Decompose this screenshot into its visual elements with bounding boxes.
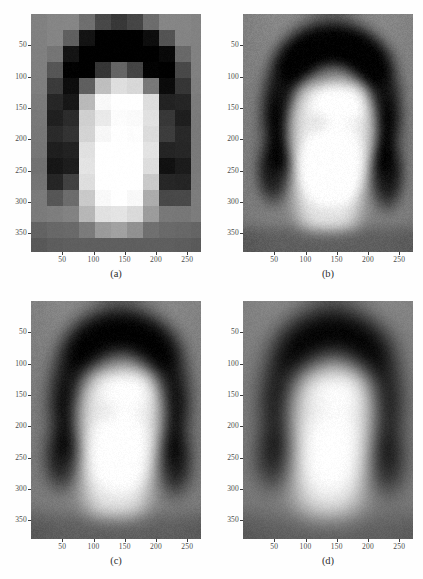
- panel-b-ytick-100: 100: [217, 72, 239, 81]
- panel-a-xtickmark: [62, 252, 63, 255]
- panel-b-ytickmark: [240, 171, 243, 172]
- panel-c-xtick-200: 200: [144, 542, 168, 551]
- panel-d-xtick-200: 200: [356, 542, 380, 551]
- panel-b-xtick-100: 100: [294, 255, 318, 264]
- panel-c-image: [31, 301, 201, 539]
- panel-b-ytickmark: [240, 139, 243, 140]
- panel-a-ytick-100: 100: [5, 72, 27, 81]
- panel-b-ytick-200: 200: [217, 134, 239, 143]
- panel-d-xtick-50: 50: [262, 542, 286, 551]
- panel-c-xtickmark: [62, 539, 63, 542]
- panel-d-ytickmark: [240, 364, 243, 365]
- panel-a-ytickmark: [28, 233, 31, 234]
- panel-b-xtickmark: [274, 252, 275, 255]
- panel-b-xtickmark: [337, 252, 338, 255]
- panel-c-ytick-100: 100: [5, 359, 27, 368]
- panel-a-xtickmark: [94, 252, 95, 255]
- panel-a-ytickmark: [28, 45, 31, 46]
- panel-d-xtick-150: 150: [325, 542, 349, 551]
- panel-c: 5010015020025030035050100150200250 (c): [0, 290, 212, 579]
- panel-c-ytickmark: [28, 520, 31, 521]
- panel-c-xtick-50: 50: [50, 542, 74, 551]
- figure-grid: 5010015020025030035050100150200250 (a) 5…: [0, 0, 423, 579]
- panel-b-xtickmark: [399, 252, 400, 255]
- panel-a-xtick-100: 100: [82, 255, 106, 264]
- panel-d-xtickmark: [368, 539, 369, 542]
- panel-b: 5010015020025030035050100150200250 (b): [212, 0, 423, 290]
- panel-a-ytickmark: [28, 171, 31, 172]
- panel-c-xtick-150: 150: [113, 542, 137, 551]
- panel-a-xtick-50: 50: [50, 255, 74, 264]
- panel-c-ytick-50: 50: [5, 327, 27, 336]
- panel-d-caption: (d): [293, 555, 363, 566]
- panel-a-xtick-150: 150: [113, 255, 137, 264]
- panel-d-ytick-100: 100: [217, 359, 239, 368]
- panel-d-ytick-350: 350: [217, 515, 239, 524]
- panel-b-xtickmark: [368, 252, 369, 255]
- panel-c-xtickmark: [125, 539, 126, 542]
- panel-b-ytickmark: [240, 77, 243, 78]
- panel-d-image: [243, 301, 413, 539]
- panel-d-ytick-300: 300: [217, 484, 239, 493]
- panel-c-ytickmark: [28, 426, 31, 427]
- panel-a-xtickmark: [156, 252, 157, 255]
- panel-a-ytick-300: 300: [5, 197, 27, 206]
- panel-c-ytick-200: 200: [5, 421, 27, 430]
- panel-a: 5010015020025030035050100150200250 (a): [0, 0, 212, 290]
- panel-b-ytick-350: 350: [217, 228, 239, 237]
- panel-b-ytick-250: 250: [217, 166, 239, 175]
- panel-d-xtickmark: [306, 539, 307, 542]
- panel-c-ytick-150: 150: [5, 390, 27, 399]
- panel-d-ytickmark: [240, 520, 243, 521]
- panel-b-xtick-250: 250: [387, 255, 411, 264]
- panel-d-xtickmark: [337, 539, 338, 542]
- panel-d-ytick-150: 150: [217, 390, 239, 399]
- panel-b-image: [243, 14, 413, 252]
- panel-c-ytickmark: [28, 489, 31, 490]
- panel-b-ytick-150: 150: [217, 103, 239, 112]
- panel-c-ytickmark: [28, 364, 31, 365]
- panel-b-ytickmark: [240, 45, 243, 46]
- panel-d-ytick-250: 250: [217, 453, 239, 462]
- panel-c-ytick-300: 300: [5, 484, 27, 493]
- panel-a-ytickmark: [28, 139, 31, 140]
- panel-d-xtickmark: [399, 539, 400, 542]
- panel-d-ytick-50: 50: [217, 327, 239, 336]
- panel-c-ytick-250: 250: [5, 453, 27, 462]
- panel-c-xtickmark: [187, 539, 188, 542]
- panel-c-xtick-250: 250: [175, 542, 199, 551]
- panel-d-xtickmark: [274, 539, 275, 542]
- panel-a-ytickmark: [28, 108, 31, 109]
- panel-b-ytickmark: [240, 233, 243, 234]
- panel-d: 5010015020025030035050100150200250 (d): [212, 290, 423, 579]
- panel-b-ytick-50: 50: [217, 40, 239, 49]
- panel-d-ytickmark: [240, 458, 243, 459]
- panel-b-ytickmark: [240, 108, 243, 109]
- panel-a-image: [31, 14, 201, 252]
- panel-c-ytickmark: [28, 332, 31, 333]
- panel-a-xtick-250: 250: [175, 255, 199, 264]
- panel-d-xtick-100: 100: [294, 542, 318, 551]
- panel-b-xtickmark: [306, 252, 307, 255]
- panel-b-xtick-50: 50: [262, 255, 286, 264]
- panel-a-ytick-50: 50: [5, 40, 27, 49]
- panel-c-ytick-350: 350: [5, 515, 27, 524]
- panel-a-xtickmark: [187, 252, 188, 255]
- panel-c-xtick-100: 100: [82, 542, 106, 551]
- panel-b-caption: (b): [293, 268, 363, 279]
- panel-b-ytick-300: 300: [217, 197, 239, 206]
- panel-c-ytickmark: [28, 395, 31, 396]
- panel-b-xtick-150: 150: [325, 255, 349, 264]
- panel-a-ytickmark: [28, 202, 31, 203]
- panel-a-ytick-250: 250: [5, 166, 27, 175]
- panel-c-ytickmark: [28, 458, 31, 459]
- panel-a-ytick-150: 150: [5, 103, 27, 112]
- panel-d-ytickmark: [240, 395, 243, 396]
- panel-a-ytick-350: 350: [5, 228, 27, 237]
- panel-b-ytickmark: [240, 202, 243, 203]
- panel-a-ytickmark: [28, 77, 31, 78]
- panel-a-ytick-200: 200: [5, 134, 27, 143]
- panel-a-caption: (a): [81, 268, 151, 279]
- panel-d-xtick-250: 250: [387, 542, 411, 551]
- panel-c-xtickmark: [94, 539, 95, 542]
